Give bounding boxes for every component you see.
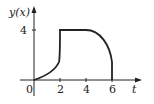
x-axis-arrow-icon (135, 78, 142, 83)
x-tick-label-2: 2 (57, 83, 64, 96)
origin-label: 0 (26, 83, 33, 96)
y-axis-label: y(x) (8, 6, 30, 19)
x-axis-label: t (132, 83, 137, 96)
y-axis-arrow-icon (32, 6, 37, 13)
x-tick-label-6: 6 (109, 83, 116, 96)
x-tick-label-4: 4 (83, 83, 90, 96)
data-curve (34, 30, 112, 80)
chart: y(x) 4 0 2 4 6 t (0, 0, 154, 104)
y-tick-label-4: 4 (20, 24, 27, 37)
